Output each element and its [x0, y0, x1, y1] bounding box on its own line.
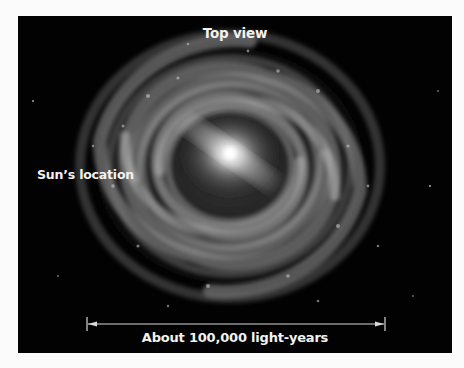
sun-location-label: Sun’s location	[37, 167, 134, 182]
scale-bar	[86, 317, 386, 331]
arrow-left-icon	[88, 322, 97, 327]
arrow-right-icon	[375, 322, 384, 327]
scale-label: About 100,000 light-years	[18, 330, 452, 345]
figure-title: Top view	[18, 25, 452, 41]
milky-way-galaxy-image	[18, 16, 452, 353]
galaxy-panel: Top view Sun’s location About 100,000 li…	[18, 16, 452, 353]
